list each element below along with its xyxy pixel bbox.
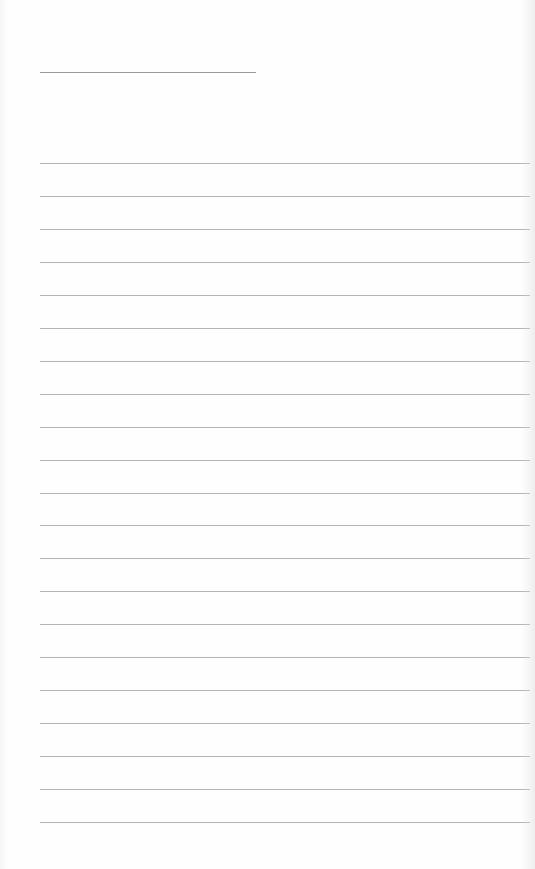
ruled-line	[40, 822, 530, 823]
ruled-line	[40, 525, 530, 526]
ruled-line	[40, 460, 530, 461]
ruled-line	[40, 657, 530, 658]
ruled-line	[40, 229, 530, 230]
ruled-line	[40, 361, 530, 362]
ruled-line	[40, 427, 530, 428]
ruled-line	[40, 163, 530, 164]
ruled-line	[40, 196, 530, 197]
scan-edge-shadow	[521, 0, 535, 869]
title-underline	[40, 72, 256, 73]
ruled-line	[40, 493, 530, 494]
lined-paper-page	[0, 0, 535, 869]
ruled-line	[40, 756, 530, 757]
ruled-line	[40, 262, 530, 263]
ruled-line	[40, 295, 530, 296]
ruled-line	[40, 591, 530, 592]
ruled-line	[40, 558, 530, 559]
ruled-line	[40, 624, 530, 625]
ruled-line	[40, 789, 530, 790]
scan-left-shadow	[0, 0, 8, 869]
ruled-line	[40, 328, 530, 329]
ruled-line	[40, 394, 530, 395]
ruled-line	[40, 690, 530, 691]
ruled-line	[40, 723, 530, 724]
